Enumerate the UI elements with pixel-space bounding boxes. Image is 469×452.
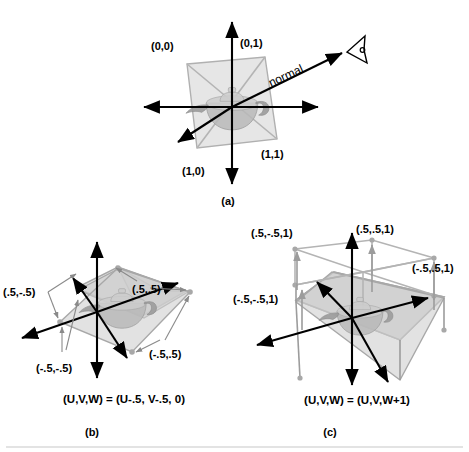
panel-a: normal (0,0) (0,1) (1,1) (1,0) (a) bbox=[144, 22, 367, 207]
panel-c: (.5,-.5,1) (.5,.5,1) (-.5,.5,1) (-.5,-.5… bbox=[233, 223, 454, 438]
caption-c: (c) bbox=[323, 426, 337, 438]
corner-label-b-back-left: (.5,-.5) bbox=[3, 286, 36, 298]
equation-c: (U,V,W) = (U,V,W+1) bbox=[304, 394, 410, 406]
technical-figure: normal (0,0) (0,1) (1,1) (1,0) (a) bbox=[0, 0, 469, 452]
caption-b: (b) bbox=[85, 426, 99, 438]
corner-label-c-top-back-left: (.5,-.5,1) bbox=[251, 227, 293, 239]
corner-label-b-front-right: (-.5,.5) bbox=[149, 348, 182, 360]
corner-label-c-top-front-right: (-.5,.5,1) bbox=[412, 262, 454, 274]
figure-root: normal (0,0) (0,1) (1,1) (1,0) (a) bbox=[0, 0, 469, 452]
corner-label-0-0: (0,0) bbox=[151, 40, 174, 52]
corner-label-c-top-front-left: (-.5,-.5,1) bbox=[233, 293, 279, 305]
corner-label-0-1: (0,1) bbox=[240, 37, 263, 49]
caption-a: (a) bbox=[221, 195, 235, 207]
corner-label-c-top-back-right: (.5,.5,1) bbox=[356, 223, 394, 235]
normal-label: normal bbox=[266, 62, 305, 90]
corner-label-b-back-right: (.5,.5) bbox=[132, 283, 161, 295]
corner-label-b-front-left: (-.5,-.5) bbox=[36, 362, 72, 374]
corner-label-1-0: (1,0) bbox=[182, 165, 205, 177]
leader-b-back-left bbox=[48, 274, 76, 292]
panel-b: (.5,-.5) (.5,.5) (-.5,.5) (-.5,-.5) (U,V… bbox=[3, 242, 193, 438]
corner-label-1-1: (1,1) bbox=[261, 148, 284, 160]
eye-icon bbox=[347, 36, 367, 63]
equation-b: (U,V,W) = (U-.5, V-.5, 0) bbox=[63, 393, 185, 405]
